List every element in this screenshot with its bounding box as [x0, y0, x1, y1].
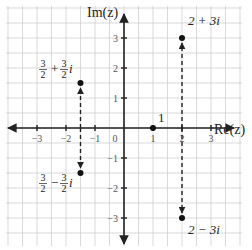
- y-tick-label: −1: [107, 153, 118, 164]
- y-tick-label: 3: [113, 33, 118, 44]
- axes: [8, 14, 234, 244]
- frac-den: 2: [41, 69, 46, 80]
- imaginary-unit: i: [69, 175, 73, 190]
- point-label-2-minus-3i: 2 − 3i: [188, 222, 220, 237]
- complex-plane: −3−2−10123−3−2−1123 Re(z) Im(z) 2 + 3i 2…: [0, 0, 252, 250]
- imaginary-unit: i: [69, 61, 73, 76]
- frac-num: 3: [62, 58, 67, 69]
- y-tick-label: −2: [107, 183, 118, 194]
- x-tick-label: −1: [90, 133, 101, 144]
- point-label-2-plus-3i: 2 + 3i: [188, 13, 220, 28]
- point-3-2-3-2i: [78, 170, 84, 176]
- frac-den: 2: [62, 183, 67, 194]
- y-tick-label: −3: [107, 213, 118, 224]
- frac-num: 3: [41, 58, 46, 69]
- x-tick-label: 1: [151, 133, 156, 144]
- x-tick-label: −3: [32, 133, 43, 144]
- point-label-one: 1: [158, 110, 165, 125]
- x-tick-label: −2: [61, 133, 72, 144]
- point-label-3-2-plus-3-2-i: 3 2 + 3 2 i: [39, 58, 73, 80]
- minus-sign: −: [51, 175, 58, 190]
- point-2-3i: [179, 35, 185, 41]
- x-tick-label: 0: [113, 133, 118, 144]
- frac-den: 2: [62, 69, 67, 80]
- re-axis-label: Re(z): [214, 122, 245, 138]
- im-axis-label: Im(z): [87, 5, 118, 21]
- frac-num: 3: [62, 172, 67, 183]
- point-1: [150, 125, 156, 131]
- frac-den: 2: [41, 183, 46, 194]
- point-label-3-2-minus-3-2-i: 3 2 − 3 2 i: [39, 172, 73, 194]
- y-tick-label: 1: [113, 93, 118, 104]
- x-tick-label: 3: [209, 133, 214, 144]
- plus-sign: +: [51, 61, 58, 76]
- frac-num: 3: [41, 172, 46, 183]
- point-2-3i: [179, 215, 185, 221]
- y-tick-label: 2: [113, 63, 118, 74]
- point-3-2-3-2i: [78, 80, 84, 86]
